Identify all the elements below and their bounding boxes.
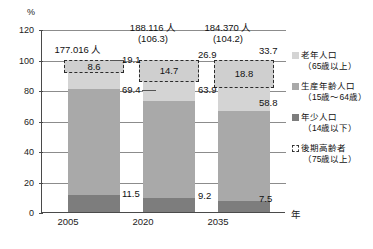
legend-item-late-elderly: 後期高齢者 （75歳以上） (292, 143, 373, 164)
tickmark-100 (39, 61, 43, 62)
bar-2020-segment-young (143, 198, 195, 212)
legend-label-young: 年少人口 (301, 112, 337, 123)
x-tick-2005: 2005 (38, 216, 98, 227)
bar-2035-late-elderly-box: 18.8 (214, 60, 274, 89)
tickmark-20 (39, 183, 43, 184)
bar-2020-late-elderly-value: 14.7 (160, 65, 179, 76)
bar-2035-late-elderly-value: 18.8 (235, 68, 254, 79)
bar-2005-segment-young (68, 195, 120, 213)
x-tick-2020: 2020 (113, 216, 173, 227)
tickmark-120 (39, 30, 43, 31)
bar-2020-late-elderly-box: 14.7 (139, 60, 199, 82)
bar-2035-total: 184.370 人 (104.2) (187, 22, 269, 44)
tickmark-0 (39, 213, 43, 214)
legend-item-elderly: 老年人口 （65歳以上） (292, 50, 373, 71)
legend-item-young: 年少人口 （14歳以下） (292, 112, 373, 133)
y-tick-0: 0 (0, 209, 34, 218)
bar-2035-working-value: 58.8 (259, 97, 278, 108)
bar-2005-total-population: 177.016 人 (37, 44, 119, 55)
legend-label-elderly: 老年人口 (301, 50, 337, 61)
y-tick-40: 40 (0, 148, 34, 157)
tickmark-60 (39, 122, 43, 123)
legend-sub-young: （14歳以下） (292, 123, 373, 134)
population-composition-chart: % 120 100 80 60 40 20 0 (0, 0, 373, 249)
y-axis-unit-label: % (27, 7, 35, 17)
bar-2020-total: 188.116 人 (106.3) (112, 22, 194, 44)
bar-2035-total-index: (104.2) (187, 33, 269, 44)
young-swatch-icon (292, 114, 299, 121)
bar-2035-segment-working (218, 111, 270, 201)
bar-2035-young-value: 7.5 (259, 193, 272, 204)
legend-label-late-elderly: 後期高齢者 (301, 143, 346, 154)
x-axis-unit-label: 年 (291, 207, 301, 221)
legend-sub-working: （15歳～64歳） (292, 92, 373, 103)
bar-2005-segment-working (68, 89, 120, 195)
bar-2020-total-population: 188.116 人 (112, 22, 194, 33)
elderly-swatch-icon (292, 52, 299, 59)
leader-2005-elderly (110, 60, 124, 61)
working-swatch-icon (292, 83, 299, 90)
y-tick-60: 60 (0, 118, 34, 127)
bar-2035-elderly-value: 33.7 (259, 45, 278, 56)
y-tick-80: 80 (0, 87, 34, 96)
tickmark-80 (39, 91, 43, 92)
bar-2020-elderly-value: 26.9 (198, 49, 217, 60)
chart-legend: 老年人口 （65歳以上） 生産年齢人口 （15歳～64歳） 年少人口 （14歳以… (292, 50, 373, 174)
bar-2020-total-index: (106.3) (112, 33, 194, 44)
bar-2020-working-value: 63.9 (198, 84, 217, 95)
legend-label-working: 生産年齢人口 (301, 81, 355, 92)
x-tick-2035: 2035 (188, 216, 248, 227)
legend-item-working: 生産年齢人口 （15歳～64歳） (292, 81, 373, 102)
bar-2020-segment-working (143, 101, 195, 198)
bar-2005-working-value: 69.4 (122, 84, 141, 95)
bar-2035-total-population: 184.370 人 (187, 22, 269, 33)
bar-2005-late-elderly-value: 8.6 (87, 61, 100, 72)
late-elderly-swatch-icon (292, 145, 299, 152)
y-tick-20: 20 (0, 179, 34, 188)
legend-sub-late-elderly: （75歳以上） (292, 154, 373, 165)
plot-area: 8.6 14.7 18.8 (41, 30, 285, 213)
bar-2005-elderly-value: 19.1 (122, 54, 141, 65)
leader-2005-working (142, 90, 156, 91)
y-tick-100: 100 (0, 57, 34, 66)
tickmark-40 (39, 152, 43, 153)
y-tick-120: 120 (0, 26, 34, 35)
bar-2005-late-elderly-box: 8.6 (64, 60, 124, 73)
legend-sub-elderly: （65歳以上） (292, 61, 373, 72)
bar-2020-young-value: 9.2 (198, 190, 211, 201)
bar-2005-total: 177.016 人 (37, 44, 119, 55)
bar-2005-young-value: 11.5 (122, 188, 140, 199)
